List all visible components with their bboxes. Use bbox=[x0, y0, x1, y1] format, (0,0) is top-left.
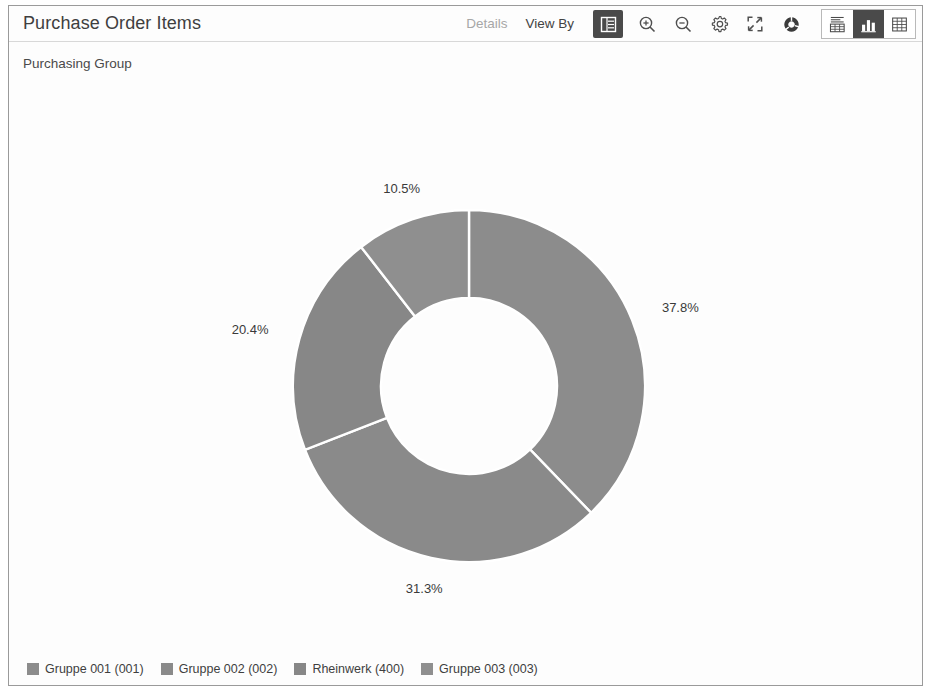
fullscreen-button[interactable] bbox=[740, 10, 770, 38]
view-mode-table-only-button[interactable] bbox=[884, 10, 915, 38]
view-mode-chart-and-table-button[interactable] bbox=[822, 10, 853, 38]
donut-slice[interactable] bbox=[469, 210, 645, 513]
legend-item[interactable]: Gruppe 003 (003) bbox=[421, 662, 538, 676]
card-header: Purchase Order Items Details View By bbox=[9, 6, 922, 42]
zoom-out-button[interactable] bbox=[668, 10, 698, 38]
legend-color-swatch bbox=[294, 663, 306, 675]
toolbar: Details View By bbox=[457, 8, 916, 40]
zoom-in-button[interactable] bbox=[632, 10, 662, 38]
page-title: Purchase Order Items bbox=[23, 13, 201, 34]
donut-data-label: 10.5% bbox=[383, 181, 420, 196]
view-by-button[interactable]: View By bbox=[516, 9, 583, 39]
chart-table-icon bbox=[828, 15, 847, 34]
legend-item-label: Gruppe 002 (002) bbox=[179, 662, 278, 676]
view-mode-chart-only-button[interactable] bbox=[853, 10, 884, 38]
legend-color-swatch bbox=[161, 663, 173, 675]
donut-chart-icon bbox=[782, 15, 801, 34]
view-mode-segmented-control bbox=[821, 9, 916, 39]
zoom-out-icon bbox=[674, 15, 693, 34]
fullscreen-icon bbox=[746, 15, 764, 33]
donut-chart-svg[interactable]: 37.8%31.3%20.4%10.5% bbox=[9, 78, 922, 638]
donut-slices bbox=[293, 210, 645, 562]
chart-card: Purchase Order Items Details View By bbox=[8, 5, 923, 686]
legend-item[interactable]: Gruppe 002 (002) bbox=[161, 662, 278, 676]
legend-item-label: Gruppe 003 (003) bbox=[439, 662, 538, 676]
legend-item[interactable]: Rheinwerk (400) bbox=[294, 662, 404, 676]
bar-chart-icon bbox=[859, 15, 878, 34]
chart-legend: Gruppe 001 (001)Gruppe 002 (002)Rheinwer… bbox=[27, 662, 555, 676]
gear-icon bbox=[710, 15, 729, 34]
legend-color-swatch bbox=[421, 663, 433, 675]
zoom-in-icon bbox=[638, 15, 657, 34]
legend-list-icon-button[interactable] bbox=[593, 10, 623, 38]
donut-data-label: 20.4% bbox=[232, 322, 269, 337]
donut-data-label: 37.8% bbox=[662, 300, 699, 315]
donut-chart: 37.8%31.3%20.4%10.5% bbox=[9, 78, 922, 638]
chart-type-button[interactable] bbox=[776, 10, 806, 38]
legend-item[interactable]: Gruppe 001 (001) bbox=[27, 662, 144, 676]
settings-button[interactable] bbox=[704, 10, 734, 38]
legend-color-swatch bbox=[27, 663, 39, 675]
legend-item-label: Gruppe 001 (001) bbox=[45, 662, 144, 676]
donut-data-label: 31.3% bbox=[406, 581, 443, 596]
grid-table-icon bbox=[890, 15, 909, 34]
dimension-label: Purchasing Group bbox=[23, 56, 132, 71]
details-button[interactable]: Details bbox=[457, 9, 516, 39]
legend-item-label: Rheinwerk (400) bbox=[312, 662, 404, 676]
legend-list-icon bbox=[600, 16, 617, 33]
